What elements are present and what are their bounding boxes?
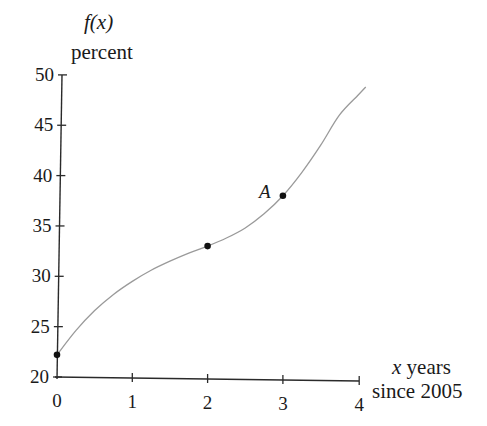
data-points: [54, 192, 287, 358]
y-axis-label-fx: f(x): [84, 10, 113, 34]
x-tick-label: 2: [198, 393, 218, 412]
data-point: [54, 352, 61, 359]
y-tick-label: 45: [17, 115, 53, 134]
point-label-a: A: [259, 182, 271, 201]
y-tick-label: 40: [16, 166, 52, 185]
point-a: [280, 192, 287, 199]
y-axis-label-unit: percent: [71, 42, 133, 63]
x-tick-label: 0: [47, 391, 67, 410]
y-tick-label: 20: [13, 367, 49, 386]
x-tick-label: 4: [349, 395, 369, 414]
x-axis-label-years: years: [401, 355, 451, 379]
y-axis-line: [57, 75, 62, 379]
x-axis-label-line2: since 2005: [372, 381, 462, 402]
data-point: [204, 243, 211, 250]
axes: [53, 75, 359, 385]
x-axis-label-var: x: [392, 355, 401, 379]
y-tick-label: 25: [14, 317, 50, 336]
y-tick-label: 50: [18, 65, 54, 84]
x-tick-label: 3: [273, 394, 293, 413]
x-tick-label: 1: [122, 392, 142, 411]
y-axis-label-function: f(x): [84, 12, 113, 33]
y-tick-label: 35: [16, 216, 52, 235]
function-curve: [57, 87, 366, 355]
y-tick-label: 30: [15, 266, 51, 285]
x-axis-label-line1: x years: [392, 357, 451, 378]
